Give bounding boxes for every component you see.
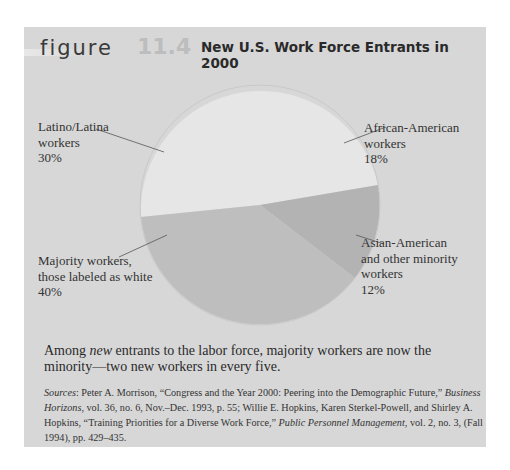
figure-panel: figure 11.4 New U.S. Work Force Entrants… xyxy=(24,27,486,447)
label-latino: Latino/Latinaworkers30% xyxy=(38,119,109,166)
label-majority: Majority workers,those labeled as white4… xyxy=(38,253,152,300)
figure-caption: Among new entrants to the labor force, m… xyxy=(44,343,474,375)
pie-slices xyxy=(140,85,380,325)
label-african: African-Americanworkers18% xyxy=(364,120,459,167)
label-asian: Asian-Americanand other minorityworkers1… xyxy=(361,235,458,297)
figure-sources: Sources: Peter A. Morrison, “Congress an… xyxy=(44,385,484,445)
